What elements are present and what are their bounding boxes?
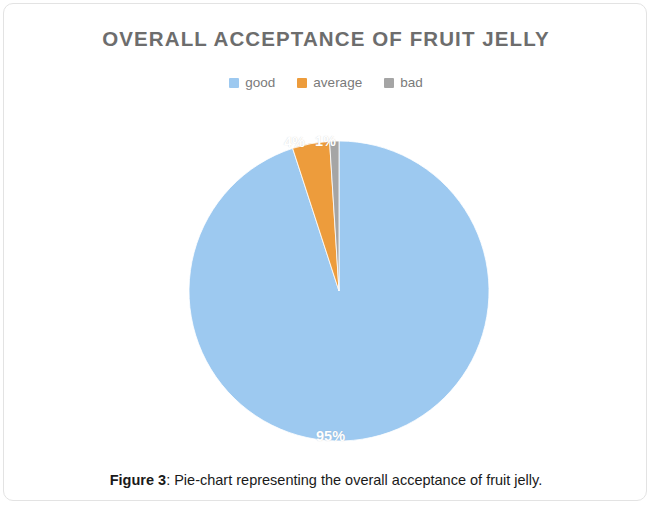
pie-chart-svg — [189, 141, 489, 441]
figure-caption-separator: : — [166, 472, 174, 488]
legend-swatch-bad-icon — [384, 78, 394, 88]
figure-caption-label: Figure 3 — [110, 472, 166, 488]
figure-caption: Figure 3: Pie-chart representing the ove… — [28, 472, 624, 488]
legend-label-average: average — [313, 76, 362, 90]
legend-item-average[interactable]: average — [297, 76, 362, 90]
legend-item-bad[interactable]: bad — [384, 76, 423, 90]
pie-chart-figure: OVERALL ACCEPTANCE OF FRUIT JELLY good a… — [0, 0, 652, 466]
chart-title: OVERALL ACCEPTANCE OF FRUIT JELLY — [0, 27, 652, 51]
legend-label-bad: bad — [400, 76, 423, 90]
legend-label-good: good — [245, 76, 275, 90]
figure-page: OVERALL ACCEPTANCE OF FRUIT JELLY good a… — [0, 0, 652, 506]
pie-slice-group — [189, 141, 489, 441]
legend-item-good[interactable]: good — [229, 76, 275, 90]
legend-swatch-average-icon — [297, 78, 307, 88]
pie-chart-plot-area — [189, 141, 489, 441]
chart-legend: good average bad — [0, 76, 652, 90]
figure-caption-text: Pie-chart representing the overall accep… — [174, 472, 542, 488]
legend-swatch-good-icon — [229, 78, 239, 88]
